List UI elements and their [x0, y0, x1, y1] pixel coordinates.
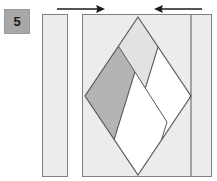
left-strip-panel [42, 14, 68, 177]
step-number-badge: 5 [4, 9, 30, 34]
diamond-graphic [83, 15, 212, 177]
figure-canvas: 5 [0, 0, 217, 181]
main-diamond-panel [82, 14, 212, 177]
